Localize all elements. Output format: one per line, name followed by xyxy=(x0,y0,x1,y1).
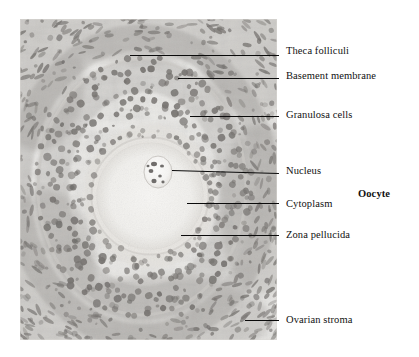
micrograph-canvas xyxy=(20,19,277,340)
leader-line-cytoplasm xyxy=(187,203,279,204)
leader-line-theca-folliculi xyxy=(130,55,279,56)
label-cytoplasm: Cytoplasm xyxy=(286,198,332,209)
label-nucleus: Nucleus xyxy=(286,165,321,176)
leader-line-granulosa-cells xyxy=(190,116,279,117)
label-theca-folliculi: Theca folliculi xyxy=(286,45,349,56)
leader-line-ovarian-stroma xyxy=(245,320,279,321)
leader-line-zona-pellucida xyxy=(181,235,279,236)
label-zona-pellucida: Zona pellucida xyxy=(286,229,350,240)
leader-line-basement-membrane xyxy=(178,78,279,79)
figure-ovarian-follicle: Theca folliculiBasement membraneGranulos… xyxy=(0,0,419,357)
micrograph-image xyxy=(20,19,277,340)
label-basement-membrane: Basement membrane xyxy=(286,70,376,81)
label-granulosa-cells: Granulosa cells xyxy=(286,109,353,120)
group-label-oocyte: Oocyte xyxy=(358,188,390,199)
label-ovarian-stroma: Ovarian stroma xyxy=(286,314,352,325)
